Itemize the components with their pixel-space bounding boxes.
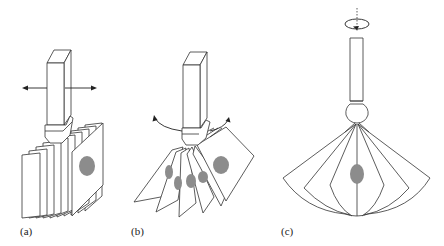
panel-c-drawing: [283, 8, 430, 216]
panel-b-rod: [182, 52, 210, 145]
panel-c-specimen-blob: [350, 164, 364, 184]
panel-c-rod: [346, 38, 368, 123]
panel-b-blob-3: [186, 174, 196, 188]
panel-b-label: (b): [131, 225, 144, 237]
panel-a-drawing: [22, 50, 103, 218]
panel-c-rotation-indicator: [345, 8, 369, 32]
panel-c-radial-sheets: [283, 123, 430, 216]
panel-a-rod: [45, 50, 73, 143]
panel-b-blob-2: [174, 176, 182, 190]
panel-a-specimen-blob: [79, 156, 95, 176]
panel-b-drawing: [134, 52, 254, 217]
panel-b-blob-4: [198, 171, 208, 183]
panel-b-blob-1: [165, 165, 173, 179]
figure-canvas: [0, 0, 444, 246]
panel-c-label: (c): [281, 225, 293, 237]
panel-b-specimen-blob: [213, 156, 229, 174]
panel-a-label: (a): [20, 225, 32, 237]
